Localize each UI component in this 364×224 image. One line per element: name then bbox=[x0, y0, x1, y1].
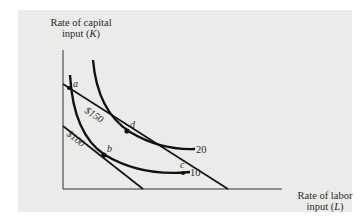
x-axis-label-line2: input (L) bbox=[290, 201, 360, 212]
point-d-marker bbox=[124, 128, 129, 133]
point-a-marker bbox=[67, 86, 71, 90]
y-axis-symbol: K bbox=[90, 28, 97, 39]
y-axis-label-suffix: ) bbox=[97, 28, 101, 39]
isocost-label-150: $150 bbox=[83, 104, 106, 124]
isoquant-label-10: 10 bbox=[190, 167, 201, 178]
isoquant-label-20: 20 bbox=[196, 144, 207, 155]
point-b-marker bbox=[101, 152, 106, 157]
point-a-label: a bbox=[73, 78, 78, 89]
x-axis-label: Rate of labor input (L) bbox=[290, 190, 360, 212]
point-b-label: b bbox=[107, 143, 112, 154]
x-axis-label-prefix: input ( bbox=[306, 201, 334, 212]
x-axis-label-suffix: ) bbox=[340, 201, 344, 212]
x-axis-label-line1: Rate of labor bbox=[290, 190, 360, 201]
y-axis-label-prefix: input ( bbox=[62, 28, 90, 39]
y-axis-label-line1: Rate of capital bbox=[36, 17, 126, 28]
point-c-marker bbox=[181, 171, 185, 175]
y-axis-label-line2: input (K) bbox=[36, 28, 126, 39]
point-d-label: d bbox=[130, 119, 136, 130]
y-axis-label: Rate of capital input (K) bbox=[36, 17, 126, 39]
point-c-label: c bbox=[180, 159, 185, 170]
